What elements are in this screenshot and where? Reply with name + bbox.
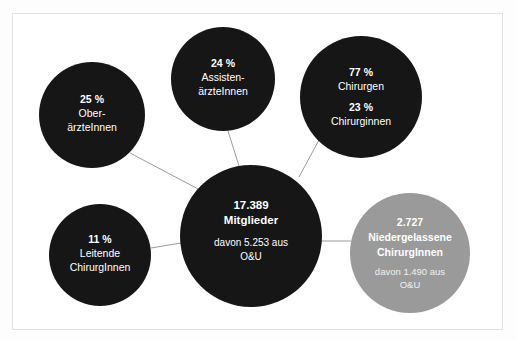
center-sub-line-2: O&U [240, 251, 262, 262]
bubble-oberaerzte-label-line-2: ärzteInnen [67, 121, 117, 133]
bubble-diagram: 25 % Ober- ärzteInnen 24 % Assisten- ärz… [0, 0, 516, 341]
connector-oberaerzte [130, 153, 200, 190]
bubble-assistenzaerzte-label-line-2: ärzteInnen [198, 85, 248, 97]
bubble-oberaerzte[interactable]: 25 % Ober- ärzteInnen [39, 62, 145, 168]
center-value: 17.389 [233, 199, 268, 211]
bubble-niedergelassene[interactable]: 2.727 Niedergelassene ChirurgInnen davon… [350, 193, 470, 313]
bubble-chirurgen-label-line-1: Chirurgen [338, 80, 384, 92]
bubble-leitende[interactable]: 11 % Leitende ChirurgInnen [49, 204, 151, 306]
connector-assistenzaerzte [228, 131, 239, 166]
bubble-niedergelassene-label-line-2: ChirurgInnen [377, 246, 443, 258]
bubble-center-circle[interactable] [180, 165, 322, 307]
bubble-niedergelassene-label-line-1: Niedergelassene [368, 231, 452, 243]
bubble-leitende-label-line-2: ChirurgInnen [70, 261, 131, 273]
bubble-assistenzaerzte-percent: 24 % [211, 57, 236, 69]
center-label: Mitglieder [224, 214, 279, 226]
bubble-assistenzaerzte-label-line-1: Assisten- [201, 71, 245, 83]
bubble-leitende-label-line-1: Leitende [80, 247, 120, 259]
center-sub-line-1: davon 5.253 aus [214, 237, 288, 248]
bubble-chirurgen-percent: 77 % [349, 66, 374, 78]
bubble-assistenzaerzte[interactable]: 24 % Assisten- ärzteInnen [171, 27, 275, 131]
bubble-chirurgen-circle[interactable] [300, 36, 422, 158]
bubble-chirurginnen-percent: 23 % [349, 101, 374, 113]
bubble-center-mitglieder[interactable]: 17.389 Mitglieder davon 5.253 aus O&U [180, 165, 322, 307]
bubble-niedergelassene-value: 2.727 [397, 216, 423, 228]
connector-chirurgen [299, 140, 319, 177]
bubble-oberaerzte-percent: 25 % [80, 93, 105, 105]
bubble-niedergelassene-sub-line-1: davon 1.490 aus [375, 266, 446, 277]
infographic-canvas: 25 % Ober- ärzteInnen 24 % Assisten- ärz… [0, 0, 516, 341]
connector-leitende [151, 243, 181, 248]
bubble-leitende-percent: 11 % [88, 233, 112, 245]
bubble-niedergelassene-sub-line-2: O&U [400, 279, 421, 290]
bubble-chirurginnen-label: Chirurginnen [331, 115, 391, 127]
bubble-chirurgen[interactable]: 77 % Chirurgen 23 % Chirurginnen [300, 36, 422, 158]
bubble-oberaerzte-label-line-1: Ober- [79, 107, 106, 119]
